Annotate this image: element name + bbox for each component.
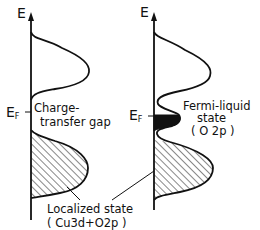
localized-state-label-line2: ( Cu3d+O2p ) <box>47 216 127 230</box>
charge-transfer-gap-label-line2: transfer gap <box>40 115 111 129</box>
left-lower-band-fill <box>31 130 88 198</box>
right-energy-axis-label: E <box>140 4 149 20</box>
left-upper-band-curve <box>31 32 89 100</box>
left-axis-arrow-icon <box>28 12 34 21</box>
fermi-liquid-label-line3: ( O 2p ) <box>191 124 235 138</box>
right-axis-arrow-icon <box>151 12 157 21</box>
charge-transfer-gap-label-line1: Charge- <box>34 101 79 115</box>
fermi-liquid-peak-fill <box>154 115 180 131</box>
localized-leader-line-right <box>112 171 154 200</box>
fermi-liquid-label-line2: state <box>197 111 226 125</box>
left-panel: E EF Charge- transfer gap <box>6 5 111 220</box>
left-energy-axis-label: E <box>17 5 26 21</box>
left-fermi-level-label: EF <box>6 104 20 121</box>
density-of-states-diagram: E EF Charge- transfer gap E EF <box>0 0 260 230</box>
right-fermi-level-label: EF <box>129 107 143 124</box>
localized-state-label-line1: Localized state <box>47 202 133 216</box>
right-panel: E EF Fermi-liquid state ( O 2p ) <box>129 4 251 210</box>
